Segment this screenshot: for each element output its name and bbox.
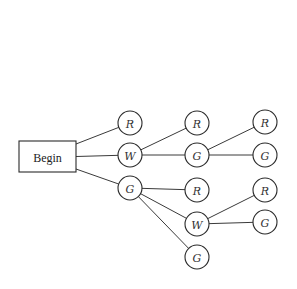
edge-c2_g_a-c3_r_a [208,127,254,150]
edge-c2_w_b-c3_r_b [208,195,255,218]
edge-c1_g-c2_r_b [142,188,185,189]
node-c2_r_a: R [185,111,209,135]
node-label: R [192,118,201,131]
node-label: W [191,219,204,232]
node-c2_g_b: G [185,245,209,269]
node-label: G [193,252,202,265]
node-label: R [260,117,269,130]
node-label: G [193,150,202,163]
node-c3_r_a: R [253,110,277,134]
node-c3_r_b: R [253,178,277,202]
node-label: R [125,118,134,131]
edges-layer [76,127,254,248]
node-c1_w: W [118,143,142,167]
edge-c1_w-c2_r_a [141,128,186,150]
edge-c1_g-c2_g_b [138,197,188,249]
begin-label: Begin [33,151,62,165]
begin-node: Begin [19,141,76,172]
node-c3_g_a: G [253,143,277,167]
edge-begin-c1_r [76,127,119,144]
node-label: G [261,217,270,230]
edge-begin-c1_g [76,169,119,184]
node-label: R [192,185,201,198]
edge-begin-c1_w [76,155,118,156]
node-c2_r_b: R [185,178,209,202]
edge-c2_w_b-c3_g_b [209,222,253,223]
node-c2_w_b: W [185,212,209,236]
node-label: G [126,183,135,196]
node-label: W [124,150,137,163]
node-c1_g: G [118,176,142,200]
node-label: G [261,150,270,163]
nodes-layer: RWGRGRWGRGRG [118,110,277,269]
node-label: R [260,185,269,198]
node-c3_g_b: G [253,210,277,234]
node-c1_r: R [118,111,142,135]
node-c2_g_a: G [185,143,209,167]
tree-diagram: Begin RWGRGRWGRGRG [0,0,297,289]
